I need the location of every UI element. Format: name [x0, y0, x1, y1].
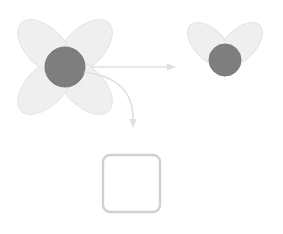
- small-flower-center: [209, 44, 241, 76]
- diagram-svg: [0, 0, 283, 234]
- transform-arrow-right: [92, 64, 176, 71]
- small-flower[interactable]: [180, 15, 271, 76]
- large-flower-center: [45, 47, 85, 87]
- transform-arrow-right-head: [167, 64, 176, 71]
- diagram-canvas: [0, 0, 283, 234]
- transform-arrow-curved-head: [130, 119, 137, 128]
- empty-result-box[interactable]: [103, 155, 160, 212]
